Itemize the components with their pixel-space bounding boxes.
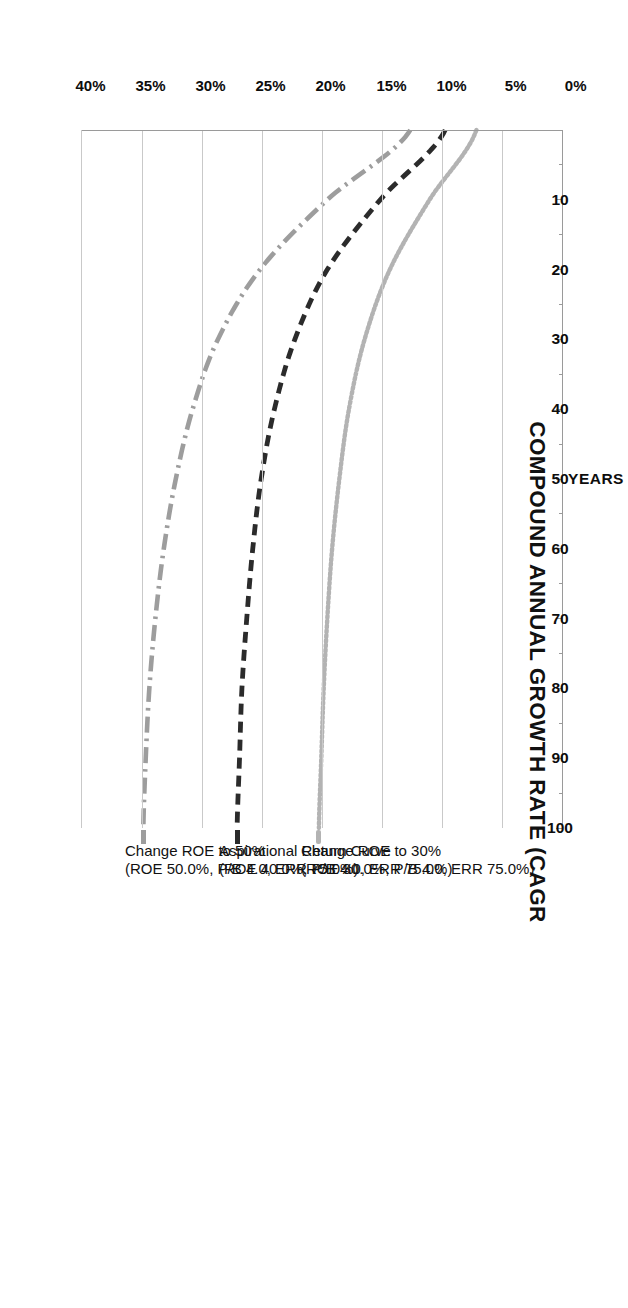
cagr-tick-label-40: 40% — [60, 77, 106, 94]
years-axis-title: YEARS — [556, 470, 628, 488]
year-tick-label-30: 30 — [540, 330, 580, 348]
cagr-tick-label-0: 0% — [541, 77, 587, 94]
plot-area — [82, 130, 563, 828]
gridline-cagr-20 — [322, 130, 323, 828]
year-tick-75 — [559, 653, 563, 654]
year-tick-65 — [559, 583, 563, 584]
series-annotation-line: Change ROE to 50% — [125, 842, 358, 860]
series-curve-3 — [143, 130, 410, 828]
series-curve-1 — [319, 130, 477, 828]
cagr-tick-label-25: 25% — [240, 77, 286, 94]
cagr-tick-label-35: 35% — [120, 77, 166, 94]
year-tick-25 — [559, 304, 563, 305]
series-key-swatch-3 — [141, 830, 146, 844]
year-tick-55 — [559, 513, 563, 514]
cagr-tick-label-15: 15% — [360, 77, 406, 94]
gridline-cagr-5 — [502, 130, 503, 828]
cagr-tick-label-20: 20% — [300, 77, 346, 94]
gridline-cagr-30 — [202, 130, 203, 828]
year-tick-label-60: 60 — [540, 540, 580, 558]
year-tick-5 — [559, 164, 563, 165]
year-tick-label-100: 100 — [540, 819, 580, 837]
series-annotation-line: (ROE 50.0%, P/B 4.0, ERR 75.0%) — [125, 860, 358, 878]
year-tick-label-80: 80 — [540, 679, 580, 697]
year-tick-95 — [559, 793, 563, 794]
year-tick-35 — [559, 374, 563, 375]
gridline-cagr-25 — [262, 130, 263, 828]
year-tick-label-20: 20 — [540, 261, 580, 279]
cagr-tick-label-10: 10% — [420, 77, 466, 94]
year-tick-label-70: 70 — [540, 610, 580, 628]
years-axis-line — [82, 130, 563, 131]
year-tick-0 — [556, 130, 563, 131]
series-annotation-3: Change ROE to 50%(ROE 50.0%, P/B 4.0, ER… — [125, 842, 358, 877]
year-tick-label-90: 90 — [540, 749, 580, 767]
gridline-cagr-15 — [382, 130, 383, 828]
gridline-cagr-40 — [82, 130, 83, 828]
gridline-cagr-10 — [442, 130, 443, 828]
year-tick-45 — [559, 444, 563, 445]
cagr-tick-label-30: 30% — [180, 77, 226, 94]
year-tick-label-40: 40 — [540, 400, 580, 418]
year-tick-label-10: 10 — [540, 191, 580, 209]
year-tick-85 — [559, 723, 563, 724]
cagr-tick-label-5: 5% — [480, 77, 526, 94]
gridline-cagr-35 — [142, 130, 143, 828]
year-tick-15 — [559, 234, 563, 235]
